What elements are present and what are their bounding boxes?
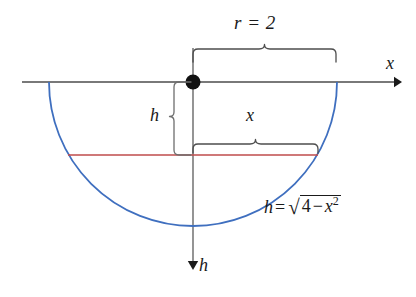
radicand-operator: − xyxy=(311,196,325,216)
h-axis-arrowhead xyxy=(188,261,198,270)
height-brace xyxy=(170,82,192,155)
equation-equals-sign: = xyxy=(273,197,287,217)
figure-container: r = 2 x h x h h=√4−x2 xyxy=(0,0,416,297)
radicand-group: 4−x2 xyxy=(300,195,341,215)
semicircle-diagram xyxy=(0,0,416,297)
radius-label: r = 2 xyxy=(234,13,276,32)
height-brace-label: h xyxy=(150,106,159,124)
radicand-first-term: 4 xyxy=(302,196,311,216)
radical-sign-icon: √ xyxy=(288,197,300,218)
x-length-brace-label: x xyxy=(246,106,254,124)
h-axis-label: h xyxy=(199,256,208,274)
x-axis-label: x xyxy=(386,54,394,72)
x-length-brace xyxy=(193,140,318,154)
radicand-variable: x xyxy=(325,196,333,216)
equation-lhs: h xyxy=(264,197,273,217)
radicand-exponent: 2 xyxy=(333,194,339,208)
radical-group: √4−x2 xyxy=(287,196,341,217)
x-axis-group xyxy=(22,77,402,87)
radius-brace xyxy=(193,45,336,63)
x-axis-arrowhead xyxy=(394,77,402,87)
curve-equation-label: h=√4−x2 xyxy=(264,196,341,217)
